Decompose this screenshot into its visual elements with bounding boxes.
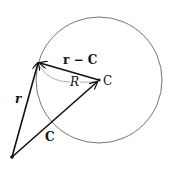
center-dot xyxy=(97,78,100,81)
label-R: R xyxy=(69,75,79,89)
label-C-vector: C xyxy=(45,130,55,144)
vector-C xyxy=(12,82,97,157)
vector-circle-diagram: r r − C R C C xyxy=(0,0,172,169)
label-r-minus-C: r − C xyxy=(63,53,97,67)
origin-dot xyxy=(10,155,14,159)
label-C-point: C xyxy=(103,74,112,88)
vector-r xyxy=(12,63,38,157)
label-r: r xyxy=(15,92,23,106)
radius-arc xyxy=(40,67,97,82)
